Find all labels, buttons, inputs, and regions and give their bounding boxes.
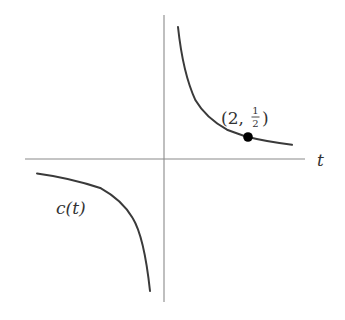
point-label-open: ( [221, 108, 228, 128]
point-label-frac-den: 2 [252, 118, 258, 129]
point-label-x: 2 [228, 108, 239, 128]
point-label-frac-num: 1 [252, 105, 258, 116]
point-label-comma: , [238, 108, 243, 128]
curve-label-text: c(t) [56, 198, 86, 218]
hyperbola-figure: t c(t) (2, 1 2 ) [0, 0, 345, 320]
svg-text:c(t): c(t) [56, 198, 86, 218]
svg-text:(2,: (2, [221, 108, 244, 128]
point-label: (2, 1 2 ) [221, 105, 269, 129]
curve-label: c(t) [56, 198, 86, 218]
curve-branch-negative [37, 174, 150, 292]
point-label-close: ) [262, 108, 269, 128]
point-marker [243, 132, 253, 142]
axis-label-t: t [317, 150, 324, 170]
